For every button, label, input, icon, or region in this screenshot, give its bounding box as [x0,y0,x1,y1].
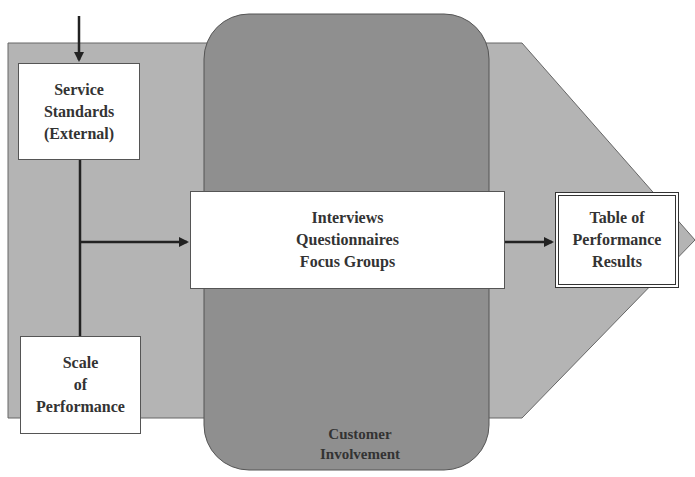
methods-line-2: Questionnaires [296,229,399,251]
customer-involvement-label: Customer Involvement [300,424,420,464]
performance-results-box: Table of Performance Results [555,192,679,288]
service-standards-line-1: Service [54,79,104,101]
results-line-2: Performance [573,229,662,251]
results-line-1: Table of [590,207,645,229]
methods-line-3: Focus Groups [300,251,395,273]
scale-of-performance-box: Scale of Performance [20,336,141,434]
service-standards-line-2: Standards [44,101,114,123]
involvement-line-2: Involvement [300,444,420,464]
methods-box: Interviews Questionnaires Focus Groups [190,191,505,289]
scale-line-3: Performance [36,396,125,418]
results-line-3: Results [592,251,642,273]
involvement-line-1: Customer [300,424,420,444]
methods-line-1: Interviews [312,207,384,229]
scale-line-2: of [74,374,87,396]
service-standards-box: Service Standards (External) [18,63,140,160]
service-standards-line-3: (External) [44,123,114,145]
scale-line-1: Scale [63,352,99,374]
